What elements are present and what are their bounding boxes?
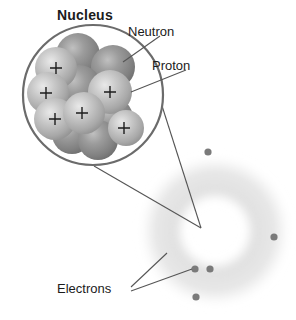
label-nucleus: Nucleus bbox=[57, 8, 113, 22]
electron-dot bbox=[204, 148, 211, 155]
electron-cloud bbox=[139, 155, 291, 307]
electron-dot bbox=[270, 233, 277, 240]
label-neutron: Neutron bbox=[128, 25, 174, 38]
electron-dot bbox=[206, 265, 213, 272]
diagram-canvas bbox=[0, 0, 296, 320]
atom-diagram: Nucleus Neutron Proton Electrons bbox=[0, 0, 296, 320]
electron-dot bbox=[192, 293, 199, 300]
label-proton: Proton bbox=[152, 59, 190, 72]
label-electrons: Electrons bbox=[57, 282, 111, 295]
electron-dot bbox=[191, 265, 198, 272]
